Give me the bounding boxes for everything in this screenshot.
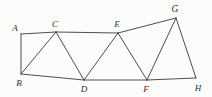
vertex-label-d: D	[81, 85, 88, 94]
vertex-label-c: C	[52, 20, 58, 29]
vertex-label-a: A	[12, 24, 18, 33]
vertex-label-e: E	[114, 20, 120, 29]
edge-bd	[21, 74, 84, 80]
vertex-label-g: G	[171, 5, 178, 14]
vertex-label-b: B	[16, 79, 22, 88]
edge-gh	[176, 18, 196, 78]
edge-eg	[118, 18, 176, 33]
edges-group	[21, 18, 196, 80]
geometry-diagram: ABCDEFGH	[0, 0, 212, 97]
edge-ce	[56, 32, 118, 33]
figure-canvas	[0, 0, 212, 97]
edge-cd	[56, 32, 84, 80]
edge-ef	[118, 33, 147, 80]
edge-fh	[147, 78, 196, 80]
edge-fg	[147, 18, 176, 80]
vertex-label-f: F	[143, 85, 149, 94]
edge-de	[84, 33, 118, 80]
vertex-label-h: H	[195, 84, 202, 93]
edge-bc	[21, 32, 56, 74]
edge-ac	[21, 32, 56, 34]
